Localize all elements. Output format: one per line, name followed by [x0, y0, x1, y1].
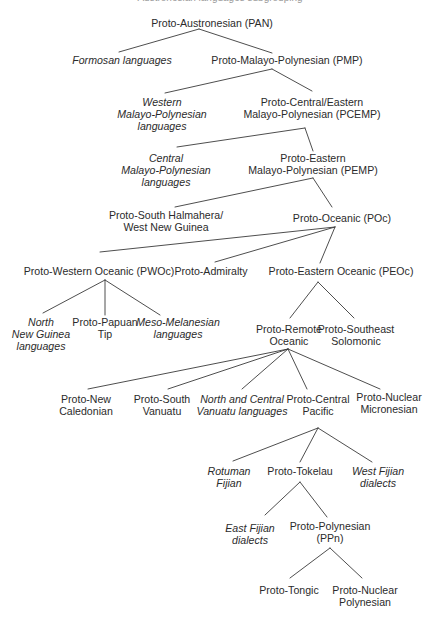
node-label-line: languages	[121, 176, 211, 188]
node-label-line: Proto-Polynesian	[290, 520, 371, 532]
node-label-line: Central	[121, 152, 211, 164]
node-label-line: Proto-New	[59, 393, 113, 405]
node-label-line: Proto-Eastern Oceanic (PEOc)	[269, 265, 414, 277]
node-label-line: East Fijian	[225, 522, 274, 534]
node-label-line: Proto-South Halmahera/	[109, 209, 223, 221]
node-label-line: Proto-Nuclear	[356, 391, 421, 403]
node-efd: East Fijiandialects	[225, 522, 274, 546]
edge-poc-peoc	[320, 227, 335, 263]
node-pshwng: Proto-South Halmahera/West New Guinea	[109, 209, 223, 233]
node-pmp: Proto-Malayo-Polynesian (PMP)	[211, 54, 362, 66]
node-label-line: West Fijian	[352, 465, 404, 477]
edge-peoc-pses	[318, 282, 354, 318]
node-label-line: Western	[117, 96, 207, 108]
node-label-line: Proto-Austronesian (PAN)	[151, 17, 273, 29]
node-wmp: WesternMalayo-Polynesianlanguages	[117, 96, 207, 132]
node-label-line: Rotuman	[208, 465, 251, 477]
node-pnp: Proto-NuclearPolynesian	[332, 584, 397, 608]
node-label-line: Proto-South	[134, 393, 191, 405]
node-label-line: North	[12, 316, 70, 328]
node-label-line: Malayo-Polynesian	[117, 108, 207, 120]
node-pnm: Proto-NuclearMicronesian	[356, 391, 421, 415]
node-label-line: Solomonic	[318, 335, 395, 347]
node-label-line: Malayo-Polynesian (PCEMP)	[243, 108, 380, 120]
node-label-line: North and Central	[197, 393, 288, 405]
node-pnc: Proto-NewCaledonian	[59, 393, 113, 417]
node-label-line: New Guinea	[12, 328, 70, 340]
node-label-line: Micronesian	[356, 403, 421, 415]
edge-pan-pmp	[199, 29, 272, 53]
node-label-line: Proto-Eastern	[248, 152, 378, 164]
node-label-line: Proto-Malayo-Polynesian (PMP)	[211, 54, 362, 66]
edge-ppn-pnp	[330, 548, 362, 578]
node-poc: Proto-Oceanic (POc)	[293, 212, 391, 224]
node-label-line: Proto-Tongic	[259, 584, 318, 596]
node-label-line: Proto-Southeast	[318, 323, 395, 335]
node-nng: NorthNew Guinealanguages	[12, 316, 70, 352]
node-label-line: languages	[117, 120, 207, 132]
node-label-line: Malayo-Polynesian	[121, 164, 211, 176]
edge-ptok-ppn	[300, 482, 327, 517]
node-label-line: Polynesian	[332, 596, 397, 608]
node-label-line: Vanuatu	[134, 405, 191, 417]
node-ppt: Proto-PapuanTip	[72, 316, 137, 340]
edge-pemp-poc	[313, 178, 332, 207]
node-padm: Proto-Admiralty	[175, 265, 248, 277]
node-label-line: Proto-Tokelau	[267, 465, 332, 477]
node-rot: RotumanFijian	[208, 465, 251, 489]
node-label-line: Pacific	[287, 405, 350, 417]
language-family-tree: Austronesian languages subgrouping Proto…	[0, 0, 430, 617]
node-label-line: West New Guinea	[109, 221, 223, 233]
node-label-line: Caledonian	[59, 405, 113, 417]
node-mmel: Meso-Melanesianlanguages	[136, 316, 220, 340]
edge-pmp-pcemp	[272, 69, 312, 91]
edge-pro-pnc	[88, 349, 288, 389]
node-label-line: Proto-Admiralty	[175, 265, 248, 277]
node-label-line: (PPn)	[290, 532, 371, 544]
node-pcemp: Proto-Central/EasternMalayo-Polynesian (…	[243, 96, 380, 120]
node-pemp: Proto-EasternMalayo-Polynesian (PEMP)	[248, 152, 378, 176]
edge-pcemp-pemp	[305, 128, 313, 151]
edge-pcp-rot	[233, 428, 318, 461]
node-ppn: Proto-Polynesian(PPn)	[290, 520, 371, 544]
node-pwoc: Proto-Western Oceanic (PWOc)	[24, 265, 175, 277]
node-psv: Proto-SouthVanuatu	[134, 393, 191, 417]
node-label-line: Formosan languages	[72, 54, 172, 66]
node-pan: Proto-Austronesian (PAN)	[151, 17, 273, 29]
node-label-line: languages	[12, 340, 70, 352]
node-label-line: dialects	[352, 477, 404, 489]
edge-pro-ncv	[242, 349, 288, 389]
node-pcp: Proto-CentralPacific	[287, 393, 350, 417]
edge-pcp-ptok	[300, 428, 318, 462]
edge-pcp-wfd	[318, 428, 372, 462]
node-label-line: Proto-Central	[287, 393, 350, 405]
node-wfd: West Fijiandialects	[352, 465, 404, 489]
node-label-line: Malayo-Polynesian (PEMP)	[248, 164, 378, 176]
edge-pan-formosan	[119, 29, 199, 52]
edge-ptok-efd	[265, 482, 300, 515]
node-label-line: Tip	[72, 328, 137, 340]
node-cmp: CentralMalayo-Polynesianlanguages	[121, 152, 211, 188]
edge-pwoc-mmel	[105, 280, 160, 315]
node-peoc: Proto-Eastern Oceanic (PEOc)	[269, 265, 414, 277]
node-label-line: Proto-Oceanic (POc)	[293, 212, 391, 224]
node-pro: Proto-RemoteOceanic	[256, 323, 322, 347]
edge-pro-pcp	[288, 349, 307, 389]
node-pses: Proto-SoutheastSolomonic	[318, 323, 395, 347]
node-ptong: Proto-Tongic	[259, 584, 318, 596]
node-ncv: North and CentralVanuatu languages	[197, 393, 288, 417]
node-label-line: Proto-Papuan	[72, 316, 137, 328]
node-label-line: languages	[136, 328, 220, 340]
edge-pmp-wmp	[165, 69, 272, 93]
node-label-line: Proto-Remote	[256, 323, 322, 335]
node-ptok: Proto-Tokelau	[267, 465, 332, 477]
edge-ppn-ptong	[290, 548, 330, 578]
node-label-line: Proto-Nuclear	[332, 584, 397, 596]
node-label-line: Proto-Western Oceanic (PWOc)	[24, 265, 175, 277]
edge-poc-padm	[215, 227, 335, 262]
edge-pwoc-nng	[43, 280, 105, 313]
node-label-line: Meso-Melanesian	[136, 316, 220, 328]
node-label-line: Oceanic	[256, 335, 322, 347]
edge-peoc-pro	[290, 282, 318, 318]
node-label-line: Vanuatu languages	[197, 405, 288, 417]
